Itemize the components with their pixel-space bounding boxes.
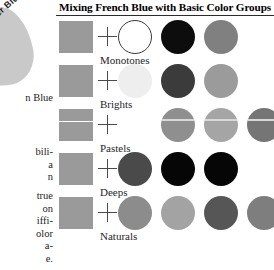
- body-text-fragment-1: n Blue: [25, 92, 53, 105]
- color-mixing-chart: Mixing French Blue with Basic Color Grou…: [56, 0, 274, 270]
- left-text-column: Powder Blue n Blue bili- a n true on iff…: [0, 0, 56, 270]
- color-circle: [161, 152, 195, 186]
- color-circle: [118, 64, 152, 98]
- plus-icon: [98, 115, 117, 134]
- color-circle: [247, 196, 274, 230]
- base-color-swatch: [59, 197, 93, 229]
- swatch-lower-band: [59, 122, 93, 141]
- plus-icon: [98, 159, 117, 178]
- body-text-line: bili-: [36, 146, 54, 159]
- plus-icon: [98, 27, 117, 46]
- body-text-line: true: [36, 190, 53, 203]
- circle-split-line: [161, 119, 195, 121]
- body-text-line: iffi-: [36, 215, 53, 228]
- body-text-line: olor: [36, 228, 53, 241]
- base-color-swatch: [59, 109, 93, 141]
- color-circle: [204, 196, 238, 230]
- title-divider: [56, 15, 274, 16]
- swatch-upper-band: [59, 109, 93, 121]
- color-circle: [161, 196, 195, 230]
- color-circle: [204, 64, 238, 98]
- circle-split-line: [247, 119, 274, 121]
- mix-row: Deeps: [56, 151, 274, 195]
- color-circle: [247, 108, 274, 142]
- mix-row: Naturals: [56, 195, 274, 239]
- plus-icon: [98, 71, 117, 90]
- plus-icon: [98, 203, 117, 222]
- color-circle: [118, 20, 152, 54]
- color-circle: [204, 108, 238, 142]
- color-circle: [118, 196, 152, 230]
- chart-title: Mixing French Blue with Basic Color Grou…: [56, 1, 274, 13]
- base-color-swatch: [59, 153, 93, 185]
- body-text-fragment-3: true on iffi- olor a- e.: [36, 190, 53, 265]
- mix-row: Brights: [56, 63, 274, 107]
- body-text-fragment-2: bili- a n: [36, 146, 54, 184]
- body-text-line: a: [36, 159, 54, 172]
- color-circle: [161, 64, 195, 98]
- body-text-line: e.: [36, 253, 53, 266]
- powder-blue-blob-graphic: [0, 2, 39, 91]
- body-text-line: on: [36, 203, 53, 216]
- circle-split-line: [204, 119, 238, 121]
- color-group-label: Naturals: [100, 230, 137, 242]
- color-circle: [161, 108, 195, 142]
- body-text-line: n: [36, 171, 54, 184]
- color-circle: [161, 20, 195, 54]
- color-circle: [204, 152, 238, 186]
- mix-row: Pastels: [56, 107, 274, 151]
- color-circle: [118, 152, 152, 186]
- mix-row: Monotones: [56, 19, 274, 63]
- body-text-line: a-: [36, 240, 53, 253]
- base-color-swatch: [59, 21, 93, 53]
- color-circle: [204, 20, 238, 54]
- base-color-swatch: [59, 65, 93, 97]
